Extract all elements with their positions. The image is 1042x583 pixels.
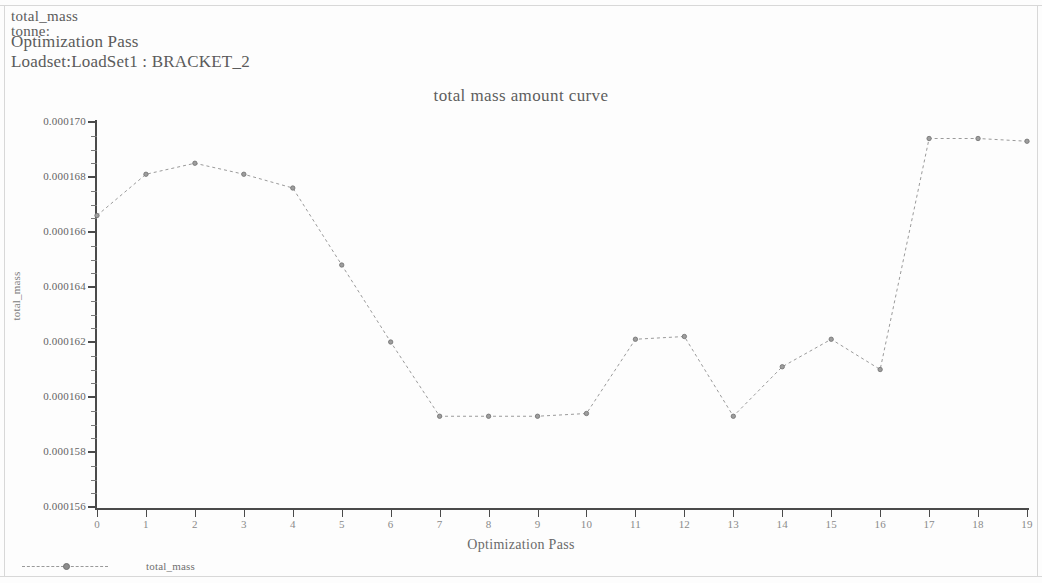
y-minor-tick: [91, 205, 97, 206]
x-tick-label: 9: [518, 518, 558, 530]
x-tick-label: 10: [566, 518, 606, 530]
y-minor-tick: [91, 356, 97, 357]
x-tick-label: 0: [77, 518, 117, 530]
y-tick-mark: [88, 121, 97, 123]
x-tick-label: 19: [1007, 518, 1042, 530]
x-tick-label: 14: [762, 518, 802, 530]
x-axis-line: [95, 508, 1029, 510]
y-minor-tick: [91, 493, 97, 494]
y-minor-tick: [91, 260, 97, 261]
x-tick-mark: [342, 508, 343, 517]
data-point-marker: [633, 337, 637, 341]
data-point-marker: [1025, 139, 1029, 143]
x-tick-mark: [538, 508, 539, 517]
chart-window: total_mass tonne: Optimization Pass Load…: [0, 0, 1042, 583]
y-minor-tick: [91, 315, 97, 316]
x-tick-mark: [489, 508, 490, 517]
y-tick-mark: [88, 506, 97, 508]
y-tick-label: 0.000158: [8, 445, 86, 457]
x-tick-mark: [586, 508, 587, 517]
x-tick-label: 13: [713, 518, 753, 530]
chart-title: total mass amount curve: [0, 86, 1042, 106]
y-tick-label: 0.000156: [8, 500, 86, 512]
chart-canvas: total mass amount curve 0.0001700.000168…: [0, 0, 1042, 583]
data-point-marker: [486, 414, 490, 418]
x-tick-mark: [97, 508, 98, 517]
x-tick-mark: [782, 508, 783, 517]
y-minor-tick: [91, 218, 97, 219]
chart-legend: total_mass: [22, 558, 195, 574]
y-minor-tick: [91, 425, 97, 426]
data-point-marker: [878, 367, 882, 371]
y-tick-mark: [88, 451, 97, 453]
y-minor-tick: [91, 246, 97, 247]
x-tick-mark: [1027, 508, 1028, 517]
y-minor-tick: [91, 411, 97, 412]
y-minor-tick: [91, 191, 97, 192]
x-tick-label: 18: [958, 518, 998, 530]
data-point-marker: [193, 161, 197, 165]
data-point-marker: [144, 172, 148, 176]
y-minor-tick: [91, 466, 97, 467]
x-tick-label: 12: [664, 518, 704, 530]
x-tick-label: 11: [615, 518, 655, 530]
x-tick-label: 1: [126, 518, 166, 530]
x-tick-label: 16: [860, 518, 900, 530]
x-tick-mark: [831, 508, 832, 517]
data-point-marker: [535, 414, 539, 418]
legend-label: total_mass: [146, 560, 195, 572]
x-tick-label: 5: [322, 518, 362, 530]
y-tick-label: 0.000170: [8, 115, 86, 127]
x-tick-mark: [978, 508, 979, 517]
x-tick-label: 7: [420, 518, 460, 530]
y-minor-tick: [91, 163, 97, 164]
x-tick-mark: [440, 508, 441, 517]
x-tick-label: 17: [909, 518, 949, 530]
data-point-marker: [291, 186, 295, 190]
y-tick-mark: [88, 231, 97, 233]
y-tick-mark: [88, 341, 97, 343]
y-minor-tick: [91, 480, 97, 481]
y-minor-tick: [91, 150, 97, 151]
y-tick-mark: [88, 176, 97, 178]
y-tick-label: 0.000162: [8, 335, 86, 347]
x-tick-mark: [293, 508, 294, 517]
y-tick-mark: [88, 396, 97, 398]
x-tick-mark: [929, 508, 930, 517]
x-tick-label: 6: [371, 518, 411, 530]
x-tick-mark: [244, 508, 245, 517]
y-axis-title: total_mass: [10, 256, 22, 336]
x-tick-mark: [635, 508, 636, 517]
data-point-marker: [731, 414, 735, 418]
data-point-marker: [242, 172, 246, 176]
x-tick-label: 15: [811, 518, 851, 530]
x-axis-title: Optimization Pass: [0, 537, 1042, 553]
y-minor-tick: [91, 273, 97, 274]
x-tick-label: 2: [175, 518, 215, 530]
legend-line-marker-icon: [22, 561, 108, 571]
x-tick-mark: [880, 508, 881, 517]
data-point-marker: [976, 136, 980, 140]
data-point-marker: [584, 411, 588, 415]
x-tick-mark: [733, 508, 734, 517]
y-minor-tick: [91, 383, 97, 384]
y-tick-label: 0.000166: [8, 225, 86, 237]
x-tick-label: 8: [469, 518, 509, 530]
x-tick-mark: [684, 508, 685, 517]
y-minor-tick: [91, 136, 97, 137]
x-tick-label: 3: [224, 518, 264, 530]
data-point-marker: [829, 337, 833, 341]
y-tick-label: 0.000168: [8, 170, 86, 182]
y-tick-mark: [88, 286, 97, 288]
y-tick-label: 0.000160: [8, 390, 86, 402]
data-point-marker: [388, 340, 392, 344]
x-tick-mark: [146, 508, 147, 517]
y-minor-tick: [91, 328, 97, 329]
y-minor-tick: [91, 301, 97, 302]
data-point-marker: [340, 263, 344, 267]
x-tick-label: 4: [273, 518, 313, 530]
x-tick-mark: [391, 508, 392, 517]
x-tick-mark: [195, 508, 196, 517]
data-point-marker: [927, 136, 931, 140]
data-point-marker: [437, 414, 441, 418]
